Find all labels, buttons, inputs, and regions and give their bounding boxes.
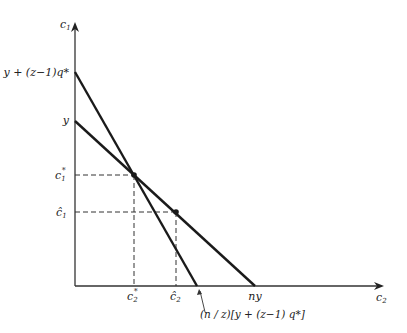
ny-label: ny	[248, 290, 262, 303]
c2-star-label: c2*	[127, 287, 138, 304]
y-axis-label: c1	[60, 18, 71, 32]
c1-hat-label: ĉ1	[56, 206, 67, 220]
annotation-arrow-icon	[197, 289, 202, 295]
flat-budget-line	[75, 121, 255, 286]
steep-intercept-annotation: (n / z)[y + (z−1) q*]	[200, 308, 306, 320]
c2-hat-label: ĉ2	[170, 290, 181, 304]
steep-budget-line	[75, 72, 197, 286]
axes	[75, 26, 380, 286]
diagram: c1 c2 y + (z−1)q* y c1* ĉ1 c2* ĉ2 ny (n …	[0, 0, 407, 333]
intersection-point	[131, 172, 137, 178]
lower-intercept-label: y	[62, 114, 70, 127]
x-axis-label: c2	[376, 291, 387, 305]
guides	[75, 175, 176, 286]
hat-point	[173, 209, 179, 215]
c1-star-label: c1*	[55, 166, 66, 183]
upper-intercept-label: y + (z−1)q*	[2, 66, 69, 79]
